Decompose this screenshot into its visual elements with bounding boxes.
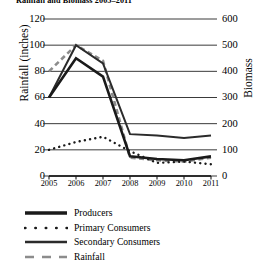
- legend-swatch-producers: [24, 206, 68, 220]
- legend-item-primary-consumers: Primary Consumers: [24, 221, 224, 236]
- legend-label-secondary-consumers: Secondary Consumers: [74, 235, 160, 249]
- legend-item-secondary-consumers: Secondary Consumers: [24, 235, 224, 250]
- legend-item-producers: Producers: [24, 206, 224, 221]
- legend-swatch-secondary-consumers: [24, 235, 68, 249]
- legend-label-producers: Producers: [74, 206, 112, 220]
- legend-item-rainfall: Rainfall: [24, 250, 224, 265]
- legend-label-primary-consumers: Primary Consumers: [74, 221, 150, 235]
- legend: Producers Primary Consumers Secondary Co…: [24, 206, 224, 264]
- series-layer: [49, 45, 211, 164]
- legend-swatch-primary-consumers: [24, 221, 68, 235]
- legend-swatch-rainfall: [24, 250, 68, 264]
- legend-label-rainfall: Rainfall: [74, 250, 105, 264]
- chart-container: Rainfall and Biomass 2005–2011 Rainfall …: [0, 0, 267, 268]
- series-line-producers: [49, 58, 211, 160]
